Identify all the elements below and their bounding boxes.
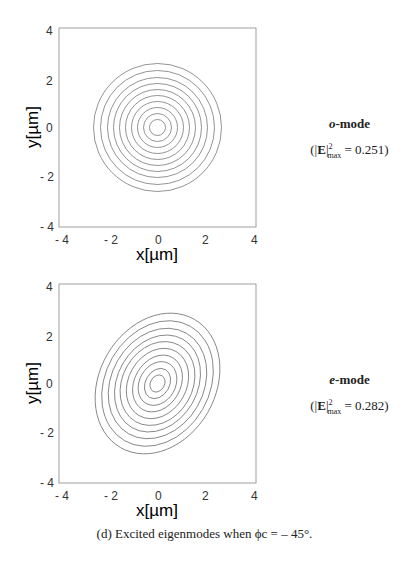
o-mode-label: o-mode (|E|2max = 0.251): [290, 116, 409, 160]
svg-text:4: 4: [46, 280, 53, 294]
svg-text:0: 0: [46, 377, 53, 391]
figure-caption: (d) Excited eigenmodes when ϕc = – 45°.: [0, 526, 409, 542]
svg-text:4: 4: [251, 489, 258, 503]
e-mode-contour-plot: 4 2 0 - 2 - 4 - 4 - 2 0 2 4 x[µm] y[µm]: [0, 256, 290, 526]
svg-text:y[µm]: y[µm]: [23, 106, 42, 148]
svg-text:- 4: - 4: [40, 220, 54, 234]
svg-text:- 4: - 4: [55, 233, 69, 247]
svg-text:4: 4: [46, 24, 53, 38]
svg-text:x[µm]: x[µm]: [136, 501, 178, 520]
o-mode-contour-plot: 4 2 0 - 2 - 4 - 4 - 2 0 2 4 x[µm] y[µm]: [0, 0, 290, 270]
e-mode-contours: [70, 290, 244, 476]
svg-text:- 2: - 2: [104, 233, 118, 247]
svg-text:- 2: - 2: [104, 489, 118, 503]
e-mode-panel: 4 2 0 - 2 - 4 - 4 - 2 0 2 4 x[µm] y[µm] …: [0, 256, 409, 526]
svg-text:2: 2: [46, 330, 53, 344]
svg-text:- 2: - 2: [40, 170, 54, 184]
o-mode-contours: [94, 64, 222, 192]
svg-text:y[µm]: y[µm]: [23, 362, 42, 404]
svg-text:2: 2: [46, 74, 53, 88]
svg-text:- 4: - 4: [55, 489, 69, 503]
svg-text:2: 2: [202, 489, 209, 503]
svg-text:- 2: - 2: [40, 426, 54, 440]
e-mode-label: e-mode (|E|2max = 0.282): [290, 372, 409, 416]
svg-text:0: 0: [46, 121, 53, 135]
o-mode-max-intensity: (|E|2max = 0.251): [290, 142, 409, 160]
svg-text:2: 2: [202, 233, 209, 247]
svg-text:4: 4: [251, 233, 258, 247]
svg-text:- 4: - 4: [40, 476, 54, 490]
o-mode-panel: 4 2 0 - 2 - 4 - 4 - 2 0 2 4 x[µm] y[µm] …: [0, 0, 409, 270]
e-mode-max-intensity: (|E|2max = 0.282): [290, 398, 409, 416]
